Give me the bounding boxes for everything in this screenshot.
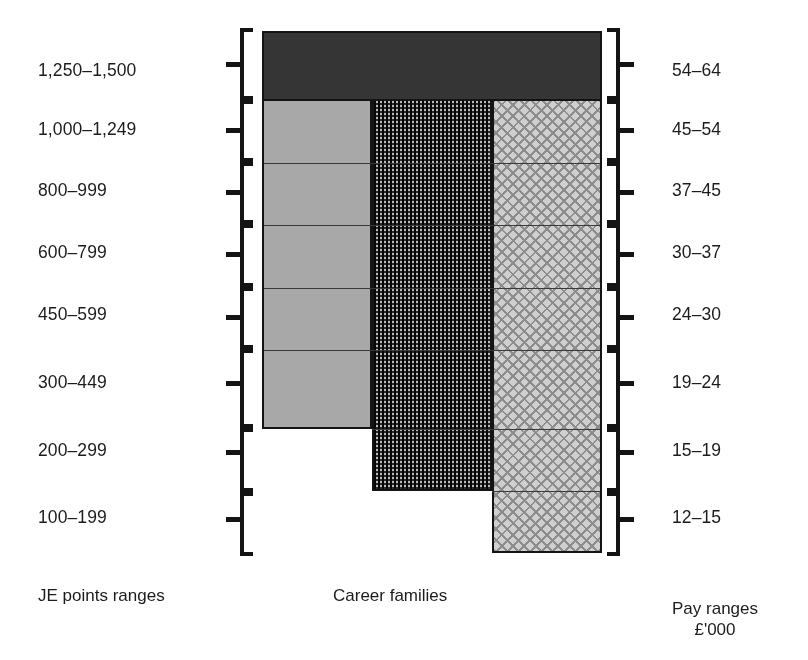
je-axis-tick-2 — [226, 190, 240, 195]
top-dark-band — [262, 31, 602, 101]
pay-axis-bracket-0 — [607, 28, 620, 100]
career-family-column-3 — [492, 31, 602, 553]
pay-axis-tick-3 — [620, 252, 634, 257]
diagram-canvas: 1,250–1,500 1,000–1,249 800–999 600–799 … — [0, 0, 808, 660]
pay-axis-bracket-4 — [607, 287, 620, 349]
pay-range-label-4: 24–30 — [672, 306, 721, 324]
caption-pay-ranges: Pay ranges £'000 — [672, 598, 758, 641]
pay-range-label-3: 30–37 — [672, 244, 721, 262]
pay-axis-bracket-2 — [607, 162, 620, 224]
band-separator-5 — [372, 429, 600, 430]
je-axis-tick-1 — [226, 128, 240, 133]
je-points-label-2: 800–999 — [38, 182, 107, 200]
pay-axis-tick-2 — [620, 190, 634, 195]
je-points-label-6: 200–299 — [38, 442, 107, 460]
je-axis-bracket-1 — [240, 100, 253, 162]
je-axis-bracket-2 — [240, 162, 253, 224]
je-axis-tick-7 — [226, 517, 240, 522]
band-separator-6 — [492, 491, 600, 492]
pay-axis-tick-4 — [620, 315, 634, 320]
je-points-label-5: 300–449 — [38, 374, 107, 392]
pay-axis-tick-0 — [620, 62, 634, 67]
pay-axis-tick-5 — [620, 381, 634, 386]
band-separator-1 — [264, 163, 600, 164]
caption-pay-ranges-line2: £'000 — [672, 619, 758, 640]
je-axis-bracket-6 — [240, 428, 253, 492]
je-points-label-1: 1,000–1,249 — [38, 121, 136, 139]
pay-range-label-0: 54–64 — [672, 62, 721, 80]
je-points-label-4: 450–599 — [38, 306, 107, 324]
je-points-label-3: 600–799 — [38, 244, 107, 262]
je-points-label-7: 100–199 — [38, 509, 107, 527]
caption-je-points-ranges: JE points ranges — [38, 585, 165, 606]
pay-axis-tick-7 — [620, 517, 634, 522]
caption-career-families: Career families — [333, 585, 447, 606]
pay-range-label-2: 37–45 — [672, 182, 721, 200]
band-separator-2 — [264, 225, 600, 226]
pay-axis-bracket-5 — [607, 349, 620, 428]
je-axis-bracket-3 — [240, 224, 253, 287]
band-separator-4 — [264, 350, 600, 351]
je-points-axis — [232, 28, 262, 556]
pay-axis-bracket-1 — [607, 100, 620, 162]
je-axis-bracket-7 — [240, 492, 253, 556]
je-axis-bracket-0 — [240, 28, 253, 100]
je-axis-tick-4 — [226, 315, 240, 320]
je-axis-bracket-4 — [240, 287, 253, 349]
pay-axis-bracket-7 — [607, 492, 620, 556]
je-axis-tick-3 — [226, 252, 240, 257]
je-axis-bracket-5 — [240, 349, 253, 428]
je-axis-tick-5 — [226, 381, 240, 386]
pay-axis-tick-6 — [620, 450, 634, 455]
caption-pay-ranges-line1: Pay ranges — [672, 598, 758, 619]
je-axis-tick-6 — [226, 450, 240, 455]
je-axis-tick-0 — [226, 62, 240, 67]
pay-axis-bracket-3 — [607, 224, 620, 287]
pay-axis-tick-1 — [620, 128, 634, 133]
band-separator-3 — [264, 288, 600, 289]
pay-range-label-7: 12–15 — [672, 509, 721, 527]
je-points-label-0: 1,250–1,500 — [38, 62, 136, 80]
pay-ranges-axis — [598, 28, 628, 556]
pay-axis-bracket-6 — [607, 428, 620, 492]
pay-range-label-1: 45–54 — [672, 121, 721, 139]
career-families-columns — [262, 31, 602, 553]
pay-range-label-6: 15–19 — [672, 442, 721, 460]
pay-range-label-5: 19–24 — [672, 374, 721, 392]
